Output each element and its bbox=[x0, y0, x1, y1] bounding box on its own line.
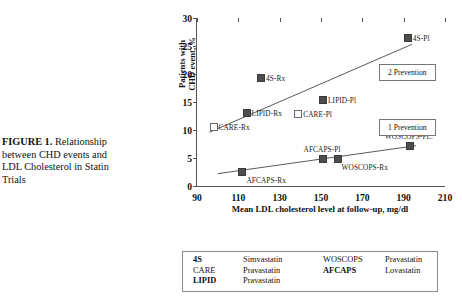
data-label-lipid-rx: LIPID-Rx bbox=[252, 109, 282, 118]
data-point-lipid-pl bbox=[319, 96, 327, 104]
data-label-4s-pl: 4S-Pl bbox=[413, 34, 430, 43]
legend-cell-woscops: WOSCOPS bbox=[321, 255, 383, 266]
legend-cell-empty bbox=[321, 276, 383, 287]
data-label-lipid-pl: LIPID-Pl bbox=[328, 96, 356, 105]
legend-box: 4SSimvastatinWOSCOPSPravastatinCAREPrava… bbox=[182, 251, 438, 292]
plot-axes: 051015202530 90110130150170190210 CARE-R… bbox=[196, 18, 445, 187]
legend-cell-lovastatin: Lovastatin bbox=[383, 266, 429, 277]
x-tick-label-190: 190 bbox=[396, 192, 410, 203]
data-label-care-pl: CARE-Pl bbox=[303, 110, 332, 119]
x-tick-mark-110 bbox=[238, 18, 239, 22]
x-tick-mark-170 bbox=[362, 18, 363, 22]
legend-cell-4s: 4S bbox=[191, 255, 241, 266]
x-tick-mark-150 bbox=[321, 18, 322, 22]
annotation-secondary-prevention: 2 Prevention bbox=[379, 64, 436, 81]
y-tick-mark-25 bbox=[193, 46, 197, 47]
data-label-4s-rx: 4S-Rx bbox=[266, 74, 285, 83]
y-tick-mark-10 bbox=[193, 130, 197, 131]
legend-cell-pravastatin: Pravastatin bbox=[241, 266, 321, 277]
legend-table: 4SSimvastatinWOSCOPSPravastatinCAREPrava… bbox=[191, 255, 429, 287]
data-point-4s-pl bbox=[404, 34, 412, 42]
y-tick-mark-15 bbox=[193, 102, 197, 103]
data-label-afcaps-pl: AFCAPS-Pl bbox=[304, 145, 341, 154]
x-tick-mark-190 bbox=[404, 18, 405, 22]
legend-cell-care: CARE bbox=[191, 266, 241, 277]
data-label-woscops-rx: WOSCOPS-Rx bbox=[342, 163, 388, 172]
legend-cell-pravastatin: Pravastatin bbox=[241, 276, 321, 287]
x-tick-mark-130 bbox=[280, 18, 281, 22]
x-tick-label-90: 90 bbox=[192, 192, 202, 203]
data-label-care-rx: CARE-Rx bbox=[219, 123, 250, 132]
x-tick-label-210: 210 bbox=[438, 192, 452, 203]
legend-cell-afcaps: AFCAPS bbox=[321, 266, 383, 277]
legend-cell-simvastatin: Simvastatin bbox=[241, 255, 321, 266]
x-tick-mark-210 bbox=[445, 18, 446, 22]
legend-cell-empty bbox=[383, 276, 429, 287]
x-tick-label-170: 170 bbox=[355, 192, 369, 203]
data-point-4s-rx bbox=[257, 74, 265, 82]
legend-cell-pravastatin: Pravastatin bbox=[383, 255, 429, 266]
data-point-afcaps-rx bbox=[238, 168, 246, 176]
data-point-lipid-rx bbox=[243, 109, 251, 117]
figure-root: FIGURE 1. Relationship between CHD event… bbox=[0, 0, 462, 302]
chart-container: Patients with CHD event, % 051015202530 … bbox=[160, 4, 460, 216]
data-point-care-pl bbox=[294, 110, 302, 118]
data-label-afcaps-rx: AFCAPS-Rx bbox=[246, 176, 285, 185]
legend-cell-lipid: LIPID bbox=[191, 276, 241, 287]
y-tick-mark-0 bbox=[193, 186, 197, 187]
data-point-woscops-rx bbox=[334, 155, 342, 163]
x-tick-label-150: 150 bbox=[314, 192, 328, 203]
data-point-woscops-pl bbox=[406, 142, 414, 150]
y-tick-mark-20 bbox=[193, 74, 197, 75]
data-point-afcaps-pl bbox=[319, 155, 327, 163]
x-tick-label-110: 110 bbox=[231, 192, 245, 203]
x-axis-title: Mean LDL cholesterol level at follow-up,… bbox=[196, 204, 444, 214]
annotation-primary-prevention: 1 Prevention bbox=[379, 119, 436, 136]
x-tick-mark-90 bbox=[197, 18, 198, 22]
legend-row: CAREPravastatinAFCAPSLovastatin bbox=[191, 266, 429, 277]
legend-row: 4SSimvastatinWOSCOPSPravastatin bbox=[191, 255, 429, 266]
data-point-care-rx bbox=[210, 123, 218, 131]
figure-caption-label: FIGURE 1. bbox=[2, 136, 52, 147]
legend-row: LIPIDPravastatin bbox=[191, 276, 429, 287]
x-tick-label-130: 130 bbox=[272, 192, 286, 203]
y-tick-mark-5 bbox=[193, 158, 197, 159]
figure-caption: FIGURE 1. Relationship between CHD event… bbox=[2, 136, 126, 186]
